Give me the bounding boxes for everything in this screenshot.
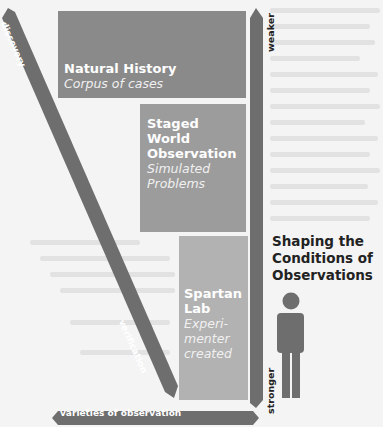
arrows-layer (0, 0, 383, 427)
side-title: Shaping the Conditions of Observations (272, 233, 373, 284)
side-title-line: Shaping the (272, 233, 373, 250)
stronger-label: stronger (265, 368, 276, 414)
varieties-label: varieties of observation (60, 408, 181, 418)
side-title-line: Observations (272, 267, 373, 284)
vertical-arrow (250, 8, 263, 408)
side-title-line: Conditions of (272, 250, 373, 267)
weaker-label: weaker (265, 13, 276, 52)
diagonal-arrow (2, 8, 178, 398)
person-icon (277, 293, 304, 399)
